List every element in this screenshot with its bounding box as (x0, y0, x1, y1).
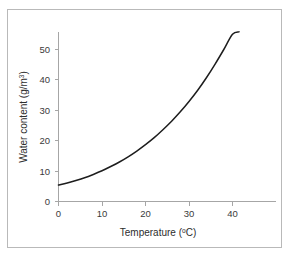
water-content-curve (59, 32, 240, 185)
y-axis-title-tail: ) (18, 71, 29, 74)
figure-frame: 0 10 20 30 40 50 0 10 20 30 40 (7, 9, 282, 248)
x-axis-title: Temperature (oC) (120, 227, 196, 239)
x-axis-title-base: Temperature ( (120, 227, 183, 238)
water-content-vs-temperature-chart: 0 10 20 30 40 50 0 10 20 30 40 (8, 10, 281, 247)
x-tick-label: 10 (97, 208, 108, 219)
x-tick-label: 30 (184, 208, 195, 219)
x-tick-label: 40 (227, 208, 238, 219)
y-axis-ticks (55, 50, 59, 202)
x-axis-tick-labels: 0 10 20 30 40 (56, 208, 238, 219)
x-tick-label: 0 (56, 208, 61, 219)
y-tick-label: 20 (39, 135, 50, 146)
y-tick-label: 50 (39, 44, 50, 55)
figure-root: 0 10 20 30 40 50 0 10 20 30 40 (0, 0, 295, 260)
y-tick-label: 10 (39, 166, 50, 177)
y-tick-label: 0 (45, 196, 50, 207)
x-tick-label: 20 (140, 208, 151, 219)
y-axis-tick-labels: 0 10 20 30 40 50 (39, 44, 50, 207)
x-axis-ticks (59, 202, 233, 206)
y-tick-label: 30 (39, 105, 50, 116)
y-tick-label: 40 (39, 74, 50, 85)
y-axis-title: Water content (g/m3) (18, 71, 30, 163)
x-axis-title-tail: C) (186, 227, 197, 238)
y-axis-title-base: Water content (g/m (18, 78, 29, 163)
